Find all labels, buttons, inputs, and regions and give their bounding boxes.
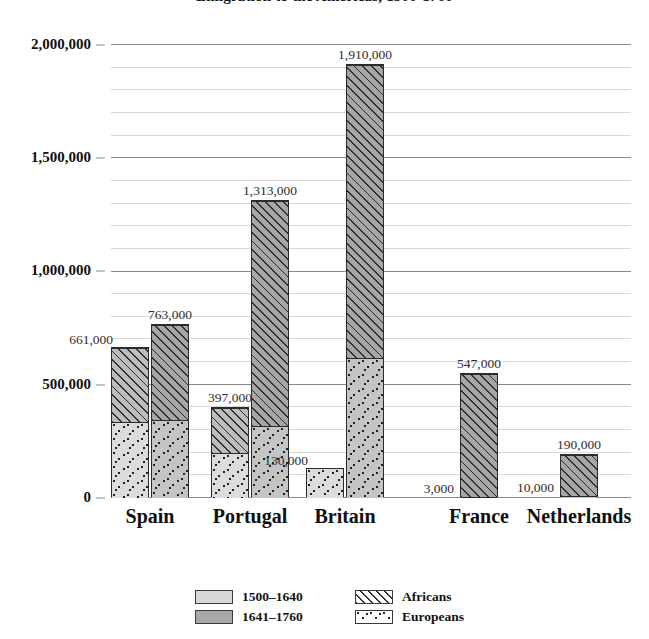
category-label-france: France xyxy=(449,505,509,528)
legend-label-period1: 1500–1640 xyxy=(242,589,303,605)
legend-row: 1641–1760 Europeans xyxy=(195,608,515,625)
bar[interactable] xyxy=(151,324,189,497)
legend-label-europeans: Europeans xyxy=(402,609,464,625)
bar-segment-africans xyxy=(212,408,248,453)
bar-value-label: 190,000 xyxy=(557,437,601,453)
bar-segment-europeans xyxy=(347,358,383,498)
bar-value-label: 547,000 xyxy=(457,356,501,372)
bar-value-label: 397,000 xyxy=(208,390,252,406)
category-label-spain: Spain xyxy=(126,505,175,528)
bar-chart: Emigration to the Americas, 1500-1760 2,… xyxy=(0,0,649,639)
legend-item-africans: Africans xyxy=(355,589,515,605)
category-label-portugal: Portugal xyxy=(213,505,287,528)
bar-segment-africans xyxy=(461,374,497,497)
bar-segment-europeans xyxy=(461,497,497,498)
y-tick-2000000: 2,000,000 xyxy=(31,36,105,53)
legend-item-europeans: Europeans xyxy=(355,609,515,625)
legend-swatch-period2 xyxy=(195,610,233,624)
y-axis-labels: 2,000,000 1,500,000 1,000,000 500,000 0 xyxy=(0,0,105,639)
plot-area xyxy=(111,44,631,497)
bar-segment-value-label: 3,000 xyxy=(424,481,454,497)
bar-segment-europeans xyxy=(561,496,597,498)
bar-segment-africans xyxy=(347,65,383,357)
chart-legend: 1500–1640 Africans 1641–1760 Europeans xyxy=(195,588,515,628)
bar-segment-value-label: 10,000 xyxy=(517,480,554,496)
legend-label-period2: 1641–1760 xyxy=(242,609,303,625)
legend-item-period2: 1641–1760 xyxy=(195,609,355,625)
bar[interactable] xyxy=(211,407,249,497)
legend-swatch-europeans xyxy=(355,610,393,624)
legend-swatch-africans xyxy=(355,590,393,604)
legend-label-africans: Africans xyxy=(402,589,452,605)
bar-value-label: 1,313,000 xyxy=(243,183,297,199)
bar-value-label: 130,000 xyxy=(264,453,308,469)
y-tick-0: 0 xyxy=(84,489,106,506)
bar-value-label: 1,910,000 xyxy=(338,47,392,63)
legend-item-period1: 1500–1640 xyxy=(195,589,355,605)
bar[interactable] xyxy=(306,468,344,497)
y-tick-1000000: 1,000,000 xyxy=(31,262,105,279)
bar-segment-africans xyxy=(152,325,188,420)
bar-value-label: 763,000 xyxy=(148,307,192,323)
bar[interactable] xyxy=(460,373,498,497)
gridline-major xyxy=(111,44,631,45)
legend-row: 1500–1640 Africans xyxy=(195,588,515,605)
bar-value-label: 661,000 xyxy=(69,332,113,348)
legend-swatch-period1 xyxy=(195,590,233,604)
bar[interactable] xyxy=(346,64,384,497)
bar-segment-europeans xyxy=(212,453,248,498)
bar-segment-africans xyxy=(252,201,288,426)
bar-segment-europeans xyxy=(307,469,343,498)
bar-segment-africans xyxy=(561,455,597,496)
category-label-britain: Britain xyxy=(314,505,375,528)
bar-segment-europeans xyxy=(152,420,188,498)
bar-segment-africans xyxy=(112,348,148,422)
category-label-netherlands: Netherlands xyxy=(527,505,631,528)
y-tick-1500000: 1,500,000 xyxy=(31,149,105,166)
bar[interactable] xyxy=(111,347,149,497)
bar-segment-europeans xyxy=(112,422,148,498)
bar[interactable] xyxy=(560,454,598,497)
y-tick-500000: 500,000 xyxy=(42,376,105,393)
